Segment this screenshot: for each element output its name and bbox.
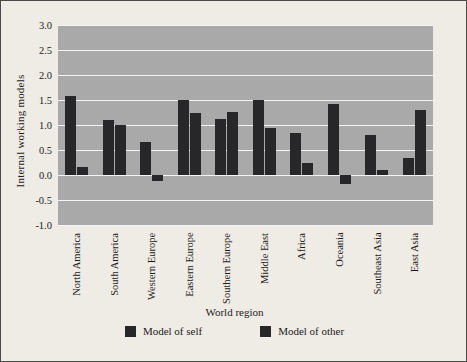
bar xyxy=(328,104,339,175)
x-tick-label-text: East Asia xyxy=(409,232,420,271)
bar xyxy=(290,133,301,176)
gridline xyxy=(58,200,433,201)
y-tick-label: 2.0 xyxy=(12,70,52,81)
x-axis-title-text: World region xyxy=(205,306,263,318)
bar xyxy=(340,175,351,184)
legend-label: Model of self xyxy=(143,325,202,337)
gridline xyxy=(58,175,433,176)
bar xyxy=(103,120,114,175)
bar xyxy=(77,167,88,176)
bar xyxy=(253,100,264,175)
legend-label: Model of other xyxy=(278,325,344,337)
gridline xyxy=(58,50,433,51)
bar xyxy=(302,163,313,176)
y-tick-label: 0.5 xyxy=(12,145,52,156)
bar xyxy=(190,113,201,176)
x-axis-ticks: North AmericaSouth AmericaWestern Europe… xyxy=(58,227,433,305)
bar xyxy=(140,142,151,175)
gridline xyxy=(58,75,433,76)
legend-swatch xyxy=(125,326,136,337)
bar xyxy=(227,112,238,176)
y-tick-label: 1.0 xyxy=(12,120,52,131)
bar-chart-figure: Internal working models 3.02.52.01.51.00… xyxy=(0,0,467,362)
bar xyxy=(403,158,414,176)
bar xyxy=(415,110,426,175)
bar xyxy=(65,96,76,175)
legend-item: Model of other xyxy=(260,325,344,337)
x-tick-label: East Asia xyxy=(375,227,453,305)
bar xyxy=(377,170,388,175)
bar xyxy=(365,135,376,175)
bar xyxy=(152,175,163,181)
y-tick-label: -0.5 xyxy=(12,195,52,206)
bar xyxy=(215,119,226,175)
gridline xyxy=(58,225,433,226)
chart-legend: Model of selfModel of other xyxy=(1,325,467,337)
bar xyxy=(265,128,276,176)
y-tick-label: 2.5 xyxy=(12,45,52,56)
bar xyxy=(178,100,189,176)
bar xyxy=(115,125,126,176)
plot-area xyxy=(58,25,433,225)
legend-swatch xyxy=(260,326,271,337)
gridline xyxy=(58,25,433,26)
y-tick-label: 0.0 xyxy=(12,170,52,181)
x-axis-title: World region xyxy=(1,306,467,318)
gridline xyxy=(58,100,433,101)
y-tick-label: 3.0 xyxy=(12,20,52,31)
y-tick-label: 1.5 xyxy=(12,95,52,106)
legend-item: Model of self xyxy=(125,325,202,337)
